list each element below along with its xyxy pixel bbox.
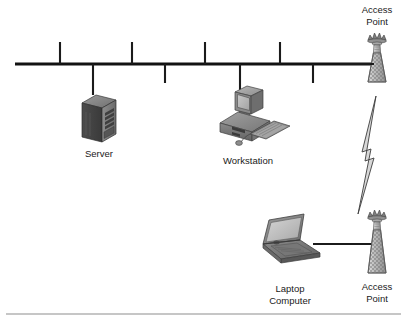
access-point-top-label-line1: Access [362, 4, 393, 15]
wireless-bridge-link [358, 96, 376, 214]
laptop-label-line2: Computer [269, 295, 311, 306]
node-workstation: Workstation [220, 86, 290, 166]
bus-backbone-group [15, 42, 371, 95]
workstation-label: Workstation [223, 155, 273, 166]
node-access-point-bottom: Access Point [362, 210, 393, 304]
node-server: Server [82, 95, 116, 159]
node-access-point-top: Access Point [340, 4, 393, 82]
laptop-icon [263, 214, 320, 263]
radio-tower-icon [368, 33, 387, 82]
radio-tower-icon [368, 210, 387, 273]
laptop-label-line1: Laptop [275, 283, 304, 294]
network-diagram: Access Point [0, 0, 407, 325]
server-tower-icon [82, 95, 116, 142]
diagram-canvas: Access Point [0, 0, 407, 325]
access-point-bottom-label-line1: Access [362, 281, 393, 292]
desktop-computer-icon [220, 86, 290, 145]
node-laptop-computer: Laptop Computer [263, 214, 320, 306]
access-point-bottom-label-line2: Point [366, 293, 388, 304]
access-point-top-label-line2: Point [366, 16, 388, 27]
lightning-bolt-icon [358, 96, 376, 214]
server-label: Server [85, 148, 113, 159]
